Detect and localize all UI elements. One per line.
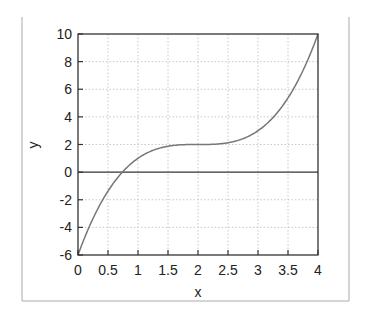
y-tick-label: 4 <box>64 109 72 125</box>
x-tick-label: 2 <box>194 262 202 278</box>
y-tick-label: 0 <box>64 164 72 180</box>
y-tick-label: 2 <box>64 137 72 153</box>
x-tick-label: 1.5 <box>158 262 178 278</box>
x-tick-label: 0.5 <box>98 262 118 278</box>
x-tick-label: 0 <box>74 262 82 278</box>
x-tick-label: 4 <box>314 262 322 278</box>
y-tick-label: 6 <box>64 81 72 97</box>
x-tick-label: 1 <box>134 262 142 278</box>
y-tick-label: 10 <box>56 26 72 42</box>
y-tick-label: -4 <box>60 219 73 235</box>
x-tick-labels: 00.511.522.533.54 <box>74 262 322 278</box>
y-tick-label: -2 <box>60 192 73 208</box>
y-tick-labels: -6-4-20246810 <box>56 26 72 263</box>
chart: 00.511.522.533.54 -6-4-20246810 x y <box>0 0 366 317</box>
y-axis-label: y <box>25 142 41 149</box>
x-tick-label: 3 <box>254 262 262 278</box>
y-tick-label: 8 <box>64 54 72 70</box>
y-tick-label: -6 <box>60 247 73 263</box>
x-tick-label: 2.5 <box>218 262 238 278</box>
x-tick-label: 3.5 <box>278 262 298 278</box>
x-axis-label: x <box>195 284 202 300</box>
